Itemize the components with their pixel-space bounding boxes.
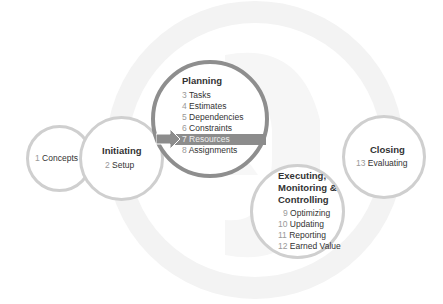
closing-circle — [342, 115, 426, 199]
executing-item-reporting: 11 Reporting — [278, 230, 326, 241]
executing-item-optimizing: 9 Optimizing — [283, 208, 330, 219]
arrow-right-icon — [156, 129, 182, 149]
planning-item-constraints: 6 Constraints — [182, 123, 232, 134]
executing-item-updating: 10 Updating — [278, 219, 324, 230]
executing-item-earned-value: 12 Earned Value — [278, 241, 341, 252]
closing-item: 13 Evaluating — [356, 158, 408, 169]
planning-item-resources: 7 Resources — [182, 134, 230, 145]
planning-title: Planning — [182, 75, 222, 86]
planning-item-tasks: 3 Tasks — [182, 90, 211, 101]
concepts-item: 1 Concepts — [35, 153, 78, 164]
planning-item-estimates: 4 Estimates — [182, 101, 226, 112]
executing-title-line2: Monitoring & — [278, 182, 337, 193]
initiating-item: 2 Setup — [105, 160, 134, 171]
planning-item-dependencies: 5 Dependencies — [182, 112, 243, 123]
executing-title-line3: Controlling — [278, 194, 329, 205]
initiating-title: Initiating — [102, 145, 142, 156]
planning-item-assignments: 8 Assignments — [182, 145, 237, 156]
executing-title-line1: Executing, — [278, 170, 326, 181]
closing-title: Closing — [370, 144, 405, 155]
